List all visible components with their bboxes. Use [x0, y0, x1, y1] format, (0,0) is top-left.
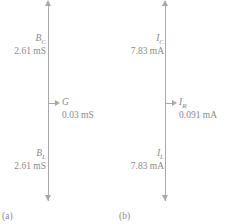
label-symbol: IR	[179, 97, 217, 110]
label-conductance: G 0.03 mS	[62, 97, 94, 121]
up-arrow-icon	[162, 0, 168, 6]
label-value: 7.83 mA	[131, 46, 164, 57]
down-arrow-icon	[45, 195, 51, 201]
label-symbol: BC	[14, 33, 46, 46]
label-current-resistive: IR 0.091 mA	[179, 97, 217, 121]
subfigure-caption-b: (b)	[119, 211, 130, 221]
phasor-figure: BC 2.61 mS G 0.03 mS BL 2.61 mS (a) IC	[0, 0, 225, 224]
label-current-capacitive: IC 7.83 mA	[131, 33, 164, 57]
label-symbol: IL	[131, 148, 164, 161]
label-current-inductive: IL 7.83 mA	[131, 148, 164, 172]
up-arrow-icon	[45, 0, 51, 6]
label-value: 0.03 mS	[62, 110, 94, 121]
label-value: 2.61 mS	[14, 46, 46, 57]
label-value: 0.091 mA	[179, 110, 217, 121]
right-arrow-icon	[55, 100, 60, 106]
label-symbol: BL	[14, 148, 46, 161]
down-arrow-icon	[162, 195, 168, 201]
phasor-panel-b: IC 7.83 mA IR 0.091 mA IL 7.83 mA (b)	[112, 0, 225, 224]
subfigure-caption-a: (a)	[2, 211, 13, 221]
label-symbol: G	[62, 97, 94, 110]
label-value: 2.61 mS	[14, 161, 46, 172]
label-susceptance-capacitive: BC 2.61 mS	[14, 33, 46, 57]
phasor-panel-a: BC 2.61 mS G 0.03 mS BL 2.61 mS (a)	[0, 0, 112, 224]
label-symbol: IC	[131, 33, 164, 46]
label-susceptance-inductive: BL 2.61 mS	[14, 148, 46, 172]
label-value: 7.83 mA	[131, 161, 164, 172]
right-arrow-icon	[172, 100, 177, 106]
